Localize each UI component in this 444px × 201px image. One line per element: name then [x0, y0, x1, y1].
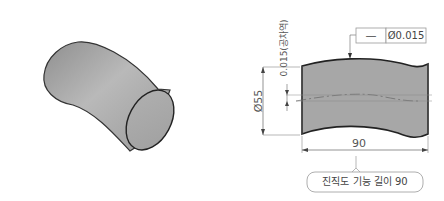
isometric-bent-cylinder [44, 42, 184, 158]
length-label: 90 [352, 137, 366, 150]
tolerance-zone-label: 0.015(공차역) [277, 20, 290, 77]
diameter-label: Ø55 [252, 90, 265, 113]
tolerance-frame-value: Ø0.015 [386, 28, 426, 43]
tolerance-frame-symbol: — [356, 28, 386, 43]
straightness-callout: 진직도 기능 길이 90 [307, 172, 423, 192]
